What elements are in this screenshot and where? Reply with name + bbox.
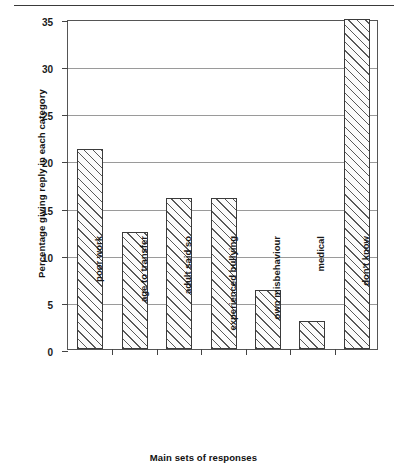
y-axis-tick: 5	[62, 304, 68, 305]
x-axis-tick	[246, 349, 247, 355]
y-axis-tick: 10	[62, 257, 68, 258]
x-axis-tick	[112, 349, 113, 355]
y-axis-tick: 25	[62, 115, 68, 116]
x-axis-category-label: own misbehaviour	[271, 236, 282, 356]
y-axis-tick: 15	[62, 210, 68, 211]
y-axis-title: Percentage giving reply in each category	[36, 59, 47, 309]
y-axis-tick-label: 5	[47, 299, 53, 310]
y-axis-tick: 35	[62, 21, 68, 22]
y-axis-tick: 0	[62, 351, 68, 352]
x-axis-category-label: experienced bullying	[227, 236, 238, 356]
x-axis-category-label: poor work	[93, 236, 104, 356]
x-axis-category-label: age to transfer	[138, 236, 149, 356]
x-axis-category-label: don't know	[360, 236, 371, 356]
x-axis-tick	[157, 349, 158, 355]
y-axis-tick-label: 30	[42, 64, 53, 75]
x-axis-tick	[335, 349, 336, 355]
x-axis-tick	[290, 349, 291, 355]
y-axis-tick: 30	[62, 68, 68, 69]
y-axis-tick-label: 0	[47, 347, 53, 358]
y-axis-tick-label: 15	[42, 205, 53, 216]
y-axis-tick-label: 10	[42, 252, 53, 263]
gridline	[68, 162, 377, 163]
gridline	[68, 115, 377, 116]
x-axis-title: Main sets of responses	[0, 452, 407, 463]
x-axis-category-label: adult said so	[182, 236, 193, 356]
y-axis-tick-label: 35	[42, 17, 53, 28]
plot-area: 05101520253035	[67, 20, 378, 350]
y-axis-tick-label: 20	[42, 158, 53, 169]
gridline	[68, 68, 377, 69]
bar-chart-figure: Percentage giving reply in each category…	[0, 0, 407, 475]
y-axis-tick-label: 25	[42, 111, 53, 122]
x-axis-tick	[201, 349, 202, 355]
x-axis-category-label: medical	[315, 236, 326, 356]
page-divider-rule	[14, 5, 394, 6]
y-axis-tick: 20	[62, 162, 68, 163]
